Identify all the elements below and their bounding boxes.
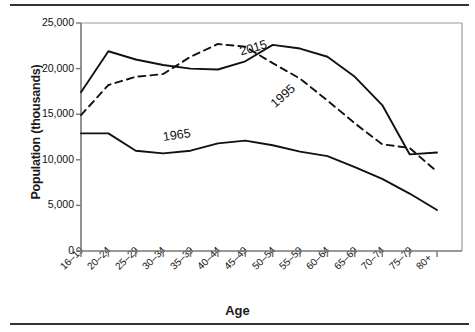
series-line-1965 xyxy=(81,133,437,210)
series-line-2015 xyxy=(81,45,437,154)
x-axis-tick-marks xyxy=(81,251,437,257)
plot-area xyxy=(0,0,475,332)
axis-lines xyxy=(81,23,462,251)
population-by-age-chart-figure: Population (thousands) Age 05,00010,0001… xyxy=(0,0,475,332)
series-line-paths xyxy=(81,44,437,210)
